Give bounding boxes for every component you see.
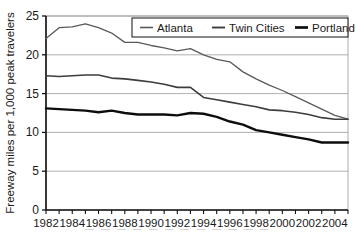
line-chart: 0510152025Freeway miles per 1,000 peak t…	[0, 0, 356, 235]
legend-label-atlanta: Atlanta	[157, 22, 193, 34]
legend: AtlantaTwin CitiesPortland	[132, 18, 355, 37]
series-group	[46, 24, 348, 143]
y-axis-title: Freeway miles per 1,000 peak travelers	[4, 12, 16, 214]
page-caption-fragment: — — — — — — — — — — — —	[0, 224, 356, 235]
y-tick-label-15: 15	[26, 87, 40, 101]
y-tick-label-25: 25	[26, 9, 40, 23]
figure-container: 0510152025Freeway miles per 1,000 peak t…	[0, 0, 356, 235]
y-tick-label-10: 10	[26, 125, 40, 139]
gridlines	[46, 16, 348, 171]
series-line-atlanta	[46, 24, 348, 119]
y-axis: 0510152025	[26, 9, 46, 217]
y-tick-label-0: 0	[32, 203, 39, 217]
y-tick-label-5: 5	[32, 164, 39, 178]
y-tick-label-20: 20	[26, 48, 40, 62]
legend-label-twin-cities: Twin Cities	[229, 22, 285, 34]
legend-label-portland: Portland	[312, 22, 355, 34]
